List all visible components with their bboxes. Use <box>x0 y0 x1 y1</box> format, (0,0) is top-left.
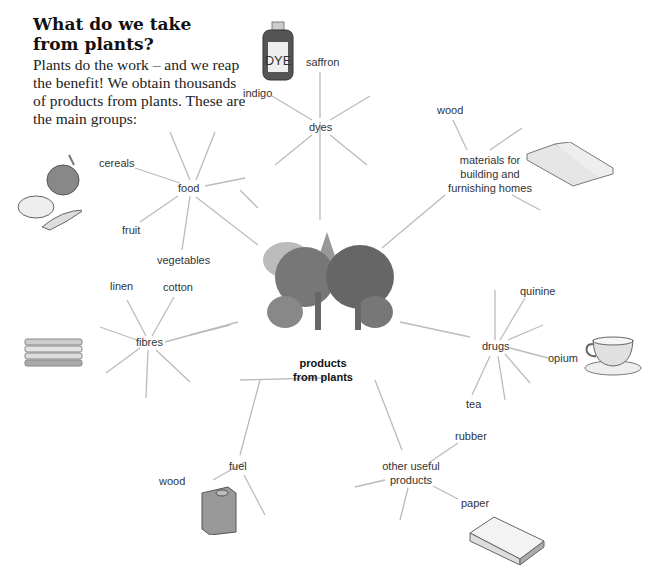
item-wood-fuel: wood <box>159 474 185 488</box>
node-materials: materials for building and furnishing ho… <box>440 153 540 195</box>
item-saffron: saffron <box>306 55 339 69</box>
node-fibres: fibres <box>136 335 163 349</box>
node-materials-line1: materials for <box>440 153 540 167</box>
node-food: food <box>178 181 199 195</box>
plants-trees-icon <box>255 232 400 332</box>
fuel-can-icon <box>200 485 240 535</box>
item-tea: tea <box>466 397 481 411</box>
node-drugs: drugs <box>482 339 510 353</box>
node-dyes: dyes <box>309 120 332 134</box>
node-other: other useful products <box>380 459 442 487</box>
item-rubber: rubber <box>455 429 487 443</box>
svg-text:DYE: DYE <box>265 53 292 68</box>
dye-bottle-icon: DYE <box>262 20 294 82</box>
node-materials-line3: furnishing homes <box>440 181 540 195</box>
center-label: products from plants <box>283 356 363 384</box>
item-vegetables: vegetables <box>157 253 210 267</box>
cloth-stack-icon <box>24 338 84 372</box>
item-indigo: indigo <box>243 86 272 100</box>
fruit-icon <box>12 150 82 235</box>
teacup-icon <box>583 332 643 377</box>
item-wood-materials: wood <box>437 103 463 117</box>
node-other-line1: other useful <box>380 459 442 473</box>
item-paper: paper <box>461 496 489 510</box>
node-fuel: fuel <box>229 459 247 473</box>
item-quinine: quinine <box>520 284 555 298</box>
item-cereals: cereals <box>99 156 134 170</box>
node-other-line2: products <box>380 473 442 487</box>
item-linen: linen <box>110 279 133 293</box>
node-materials-line2: building and <box>440 167 540 181</box>
center-label-line1: products <box>283 356 363 370</box>
item-cotton: cotton <box>163 280 193 294</box>
book-icon <box>468 515 548 565</box>
center-label-line2: from plants <box>283 370 363 384</box>
item-fruit: fruit <box>122 223 140 237</box>
item-opium: opium <box>548 351 578 365</box>
